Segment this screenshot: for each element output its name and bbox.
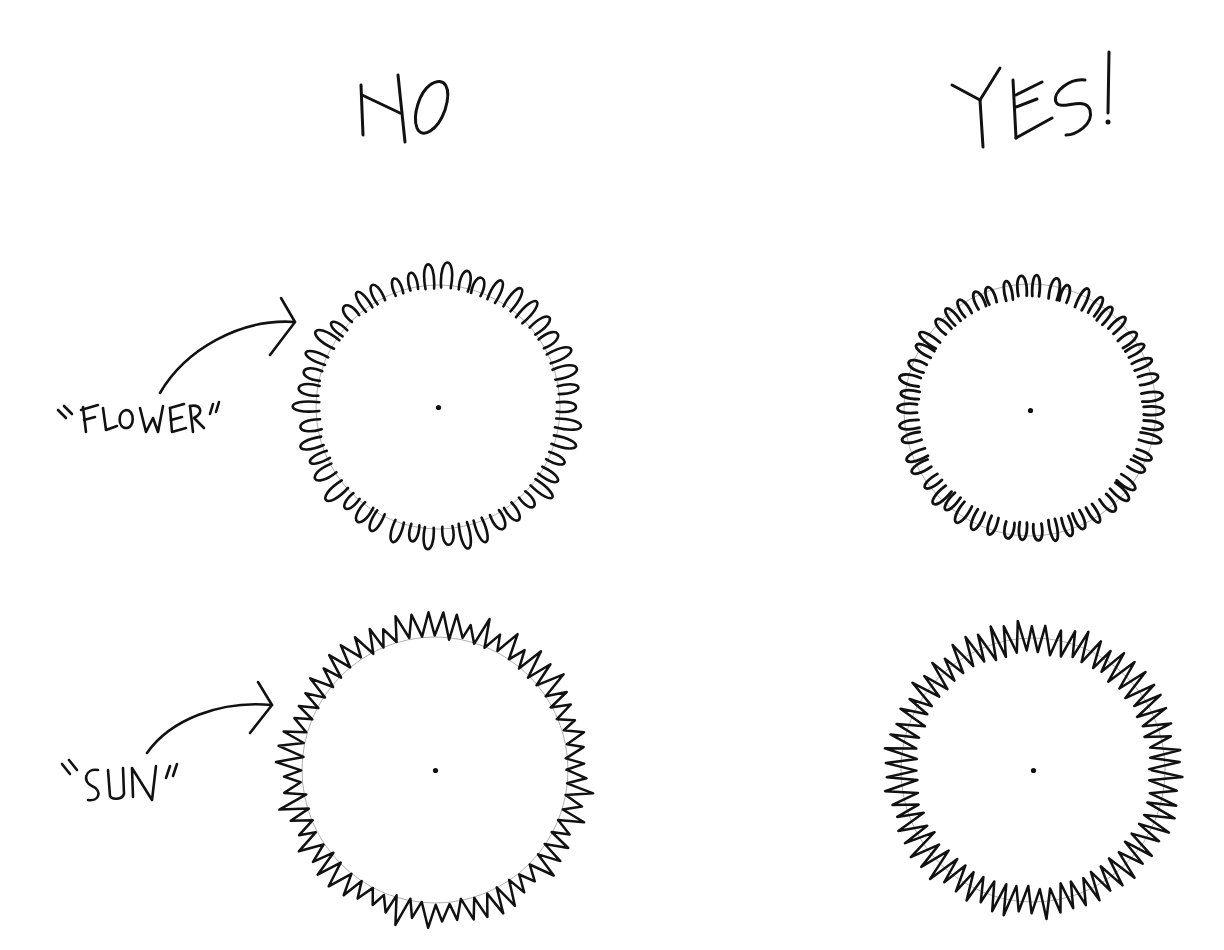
flower-border-yes-example (898, 275, 1164, 541)
heading-no (361, 75, 448, 142)
illustration-canvas (0, 0, 1224, 950)
center-dot (1028, 408, 1033, 413)
label-sun (62, 760, 177, 800)
arrow-to-sun (147, 682, 272, 753)
flower-border-no-example (293, 262, 581, 549)
label-flower (58, 402, 219, 432)
heading-yes (952, 52, 1111, 147)
center-dot (436, 405, 441, 410)
sun-border-yes-example (885, 621, 1183, 919)
center-dot (1031, 768, 1036, 773)
arrow-to-flower (160, 298, 295, 393)
sun-border-no-example (276, 612, 593, 928)
center-dot (433, 768, 438, 773)
